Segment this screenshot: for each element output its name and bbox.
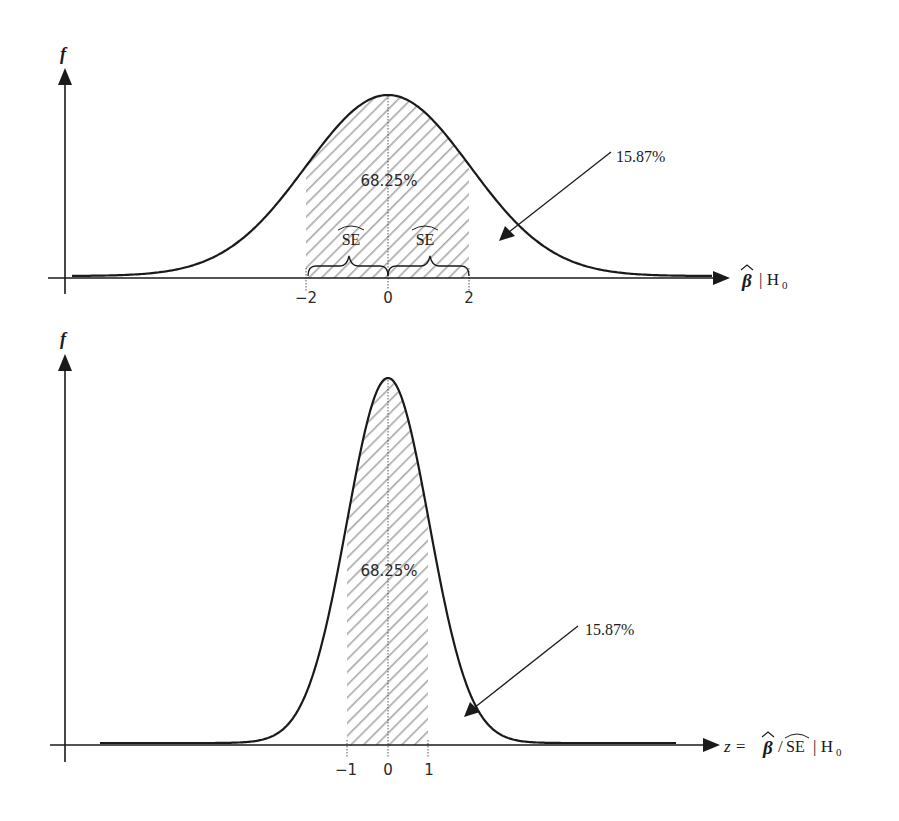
- top-tick-pos2: 2: [464, 289, 474, 307]
- svg-text:| H: | H: [813, 737, 833, 756]
- bottom-chart: 68.25% 15.87% −1 0 1 f z = β / SE | H 0: [50, 329, 842, 779]
- svg-text:z =: z =: [723, 737, 746, 756]
- top-y-label: f: [60, 44, 68, 64]
- svg-text:| H: | H: [759, 270, 779, 289]
- bottom-tick-neg1: −1: [335, 761, 357, 779]
- bottom-center-percent: 68.25%: [360, 562, 417, 580]
- bottom-tail-pointer: [474, 626, 578, 708]
- top-x-axis-arrow-icon: [713, 271, 730, 285]
- bottom-x-label: z = β / SE | H 0: [723, 732, 842, 758]
- top-x-label: β | H 0: [741, 265, 788, 291]
- svg-text:SE: SE: [342, 231, 361, 248]
- top-tail-pointer: [509, 152, 611, 232]
- top-tail-percent: 15.87%: [616, 148, 665, 165]
- top-tick-0: 0: [383, 289, 393, 307]
- svg-text:0: 0: [782, 279, 788, 291]
- svg-text:/: /: [778, 737, 783, 756]
- bottom-x-axis-arrow-icon: [703, 738, 720, 752]
- bottom-tick-0: 0: [383, 761, 393, 779]
- bottom-tick-pos1: 1: [424, 761, 434, 779]
- svg-text:SE: SE: [786, 738, 805, 755]
- svg-text:β: β: [762, 737, 773, 758]
- top-center-percent: 68.25%: [360, 172, 417, 190]
- top-chart: SE SE 68.25% 15.87% −2 0 2 f β | H 0: [48, 44, 788, 307]
- bottom-y-label: f: [60, 329, 68, 349]
- figure-canvas: SE SE 68.25% 15.87% −2 0 2 f β | H 0: [0, 0, 899, 821]
- svg-text:0: 0: [836, 746, 842, 758]
- svg-text:SE: SE: [416, 231, 435, 248]
- top-y-axis-arrow-icon: [58, 68, 72, 85]
- svg-text:β: β: [741, 270, 752, 291]
- bottom-y-axis-arrow-icon: [58, 354, 72, 371]
- bottom-tail-percent: 15.87%: [585, 621, 634, 638]
- top-tick-neg2: −2: [295, 289, 317, 307]
- top-tail-pointer-arrow-icon: [499, 226, 515, 241]
